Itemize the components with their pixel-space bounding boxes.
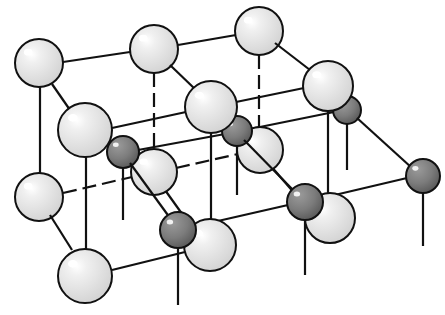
bond-line (178, 35, 236, 45)
bond-line (170, 65, 196, 90)
bond-line-back (176, 154, 238, 168)
specular-highlight (139, 35, 148, 42)
bond-line (275, 43, 310, 70)
specular-highlight (24, 183, 33, 190)
specular-highlight (412, 166, 418, 171)
specular-highlight (68, 114, 78, 122)
small-ion-sphere (406, 159, 440, 193)
specular-highlight (24, 49, 33, 56)
bond-line-back (63, 177, 132, 193)
small-ion-sphere (287, 184, 323, 220)
specular-highlight (244, 17, 253, 24)
large-ion-sphere (303, 61, 353, 111)
specular-highlight (312, 71, 321, 78)
crystal-lattice-diagram (0, 0, 445, 315)
specular-highlight (113, 143, 119, 147)
large-ion-sphere (15, 173, 63, 221)
specular-highlight (167, 219, 173, 224)
large-ion-sphere (185, 81, 237, 133)
specular-highlight (140, 158, 148, 164)
bond-line (50, 215, 72, 250)
specular-highlight (68, 260, 78, 268)
bond-line (236, 88, 304, 102)
specular-highlight (195, 92, 204, 99)
large-ion-sphere (58, 249, 112, 303)
small-ion-sphere (160, 212, 196, 248)
large-ion-sphere (15, 39, 63, 87)
bond-line (63, 52, 130, 62)
specular-highlight (294, 191, 300, 196)
bond-line (357, 118, 412, 168)
bond-line (112, 112, 186, 128)
lattice-svg (0, 0, 445, 315)
large-ion-sphere (58, 103, 112, 157)
small-ion-sphere (107, 136, 139, 168)
bond-line (52, 84, 70, 110)
large-ion-sphere (235, 7, 283, 55)
bond-line (112, 252, 185, 270)
